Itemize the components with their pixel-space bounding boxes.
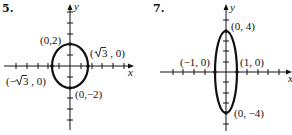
point-bottom bbox=[224, 111, 228, 115]
point-right bbox=[86, 64, 90, 68]
point-right bbox=[235, 70, 239, 74]
label-right-open: ( bbox=[90, 47, 94, 60]
y-axis-label: y bbox=[229, 1, 235, 13]
y-axis-label: y bbox=[73, 0, 79, 12]
label-left-rest: 3 , 0) bbox=[23, 75, 46, 88]
label-bottom: (0, −4) bbox=[234, 107, 264, 120]
x-axis-label: x bbox=[287, 72, 292, 84]
label-right: ( 3 , 0) bbox=[90, 47, 125, 60]
problem-number-7: 7. bbox=[153, 2, 164, 15]
graph-7: 7. x y bbox=[153, 1, 292, 131]
y-axis-arrow-icon bbox=[68, 4, 73, 10]
problem-number-5: 5. bbox=[2, 2, 13, 15]
label-left-open: (− bbox=[6, 75, 16, 88]
label-top: (0,2) bbox=[40, 34, 61, 47]
point-top bbox=[68, 42, 72, 46]
label-right-rest: 3 , 0) bbox=[102, 47, 125, 60]
point-top bbox=[224, 29, 228, 33]
label-right: (1, 0) bbox=[240, 56, 264, 69]
figure-canvas: 5. x y bbox=[0, 0, 292, 135]
label-top: (0, 4) bbox=[231, 20, 255, 33]
point-left bbox=[50, 64, 54, 68]
point-bottom bbox=[68, 86, 72, 90]
point-left bbox=[213, 70, 217, 74]
label-left: (−1, 0) bbox=[180, 56, 210, 69]
graph-5: 5. x y bbox=[2, 0, 134, 130]
x-axis-label: x bbox=[127, 66, 133, 78]
label-left: (− 3 , 0) bbox=[6, 75, 46, 88]
label-bottom: (0,−2) bbox=[75, 88, 103, 101]
y-axis-arrow-icon bbox=[224, 4, 229, 10]
